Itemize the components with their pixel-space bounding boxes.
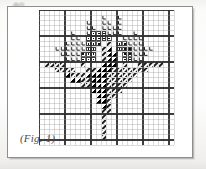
diagonal-hatch-stitch xyxy=(65,68,69,72)
figure-caption: (Fig. 1) xyxy=(20,132,55,144)
figure-frame: (Fig. 1) xyxy=(7,6,193,158)
scanned-figure-page: (Fig. 1) xyxy=(0,0,206,169)
diagonal-hatch-stitch xyxy=(143,62,147,66)
diagonal-hatch-stitch xyxy=(123,73,127,77)
diagonal-hatch-stitch xyxy=(81,73,85,77)
diagonal-hatch-stitch xyxy=(117,83,121,87)
diagonal-hatch-stitch xyxy=(102,47,106,51)
diagonal-hatch-stitch xyxy=(154,62,158,66)
diagonal-hatch-stitch xyxy=(128,73,132,77)
diagonal-hatch-stitch xyxy=(133,73,137,77)
diagonal-hatch-stitch xyxy=(159,62,163,66)
diagonal-hatch-stitch xyxy=(112,68,116,72)
diagonal-hatch-stitch xyxy=(112,88,116,92)
diagonal-hatch-stitch xyxy=(123,83,127,87)
diagonal-hatch-stitch xyxy=(138,68,142,72)
diagonal-hatch-stitch xyxy=(81,62,85,66)
diagonal-hatch-stitch xyxy=(112,78,116,82)
diagonal-hatch-stitch xyxy=(112,73,116,77)
diagonal-hatch-stitch xyxy=(102,135,106,139)
diagonal-hatch-stitch xyxy=(107,42,111,46)
cross-stitch-pattern-chart xyxy=(39,10,175,146)
diagonal-hatch-stitch xyxy=(128,68,132,72)
diagonal-hatch-stitch xyxy=(76,73,80,77)
diagonal-hatch-stitch xyxy=(81,78,85,82)
diagonal-hatch-stitch xyxy=(107,109,111,113)
diagonal-hatch-stitch xyxy=(123,78,127,82)
diagonal-hatch-stitch xyxy=(107,94,111,98)
diagonal-hatch-stitch xyxy=(112,83,116,87)
diagonal-hatch-stitch xyxy=(86,78,90,82)
diagonal-hatch-stitch xyxy=(107,78,111,82)
diagonal-hatch-stitch xyxy=(102,114,106,118)
diagonal-hatch-stitch xyxy=(102,130,106,134)
diagonal-hatch-stitch xyxy=(117,68,121,72)
diagonal-hatch-stitch xyxy=(143,68,147,72)
pattern-grid-svg xyxy=(39,10,175,146)
diagonal-hatch-stitch xyxy=(117,78,121,82)
diagonal-hatch-stitch xyxy=(107,83,111,87)
diagonal-hatch-stitch xyxy=(55,68,59,72)
diagonal-hatch-stitch xyxy=(123,62,127,66)
diagonal-hatch-stitch xyxy=(71,68,75,72)
diagonal-hatch-stitch xyxy=(102,109,106,113)
diagonal-hatch-stitch xyxy=(102,57,106,61)
diagonal-hatch-stitch xyxy=(91,68,95,72)
diagonal-hatch-stitch xyxy=(112,94,116,98)
diagonal-hatch-stitch xyxy=(107,73,111,77)
diagonal-hatch-stitch xyxy=(149,62,153,66)
diagonal-hatch-stitch xyxy=(102,120,106,124)
diagonal-hatch-stitch xyxy=(86,83,90,87)
diagonal-hatch-stitch xyxy=(107,99,111,103)
diagonal-hatch-stitch xyxy=(86,68,90,72)
diagonal-hatch-stitch xyxy=(60,62,64,66)
diagonal-hatch-stitch xyxy=(102,125,106,129)
diagonal-hatch-stitch xyxy=(138,62,142,66)
diagonal-hatch-stitch xyxy=(133,68,137,72)
diagonal-hatch-stitch xyxy=(107,88,111,92)
diagonal-hatch-stitch xyxy=(55,62,59,66)
diagonal-hatch-stitch xyxy=(60,68,64,72)
diagonal-hatch-stitch xyxy=(71,73,75,77)
diagonal-hatch-stitch xyxy=(107,104,111,108)
diagonal-hatch-stitch xyxy=(128,78,132,82)
diagonal-hatch-stitch xyxy=(81,83,85,87)
diagonal-hatch-stitch xyxy=(45,62,49,66)
diagonal-hatch-stitch xyxy=(117,88,121,92)
diagonal-hatch-stitch xyxy=(102,52,106,56)
diagonal-hatch-stitch xyxy=(117,73,121,77)
diagonal-hatch-stitch xyxy=(50,62,54,66)
diagonal-hatch-stitch xyxy=(123,68,127,72)
